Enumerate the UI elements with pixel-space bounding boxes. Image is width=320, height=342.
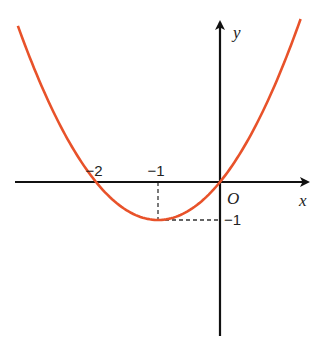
x-tick-label: −1 bbox=[147, 162, 164, 179]
y-tick-label: −1 bbox=[224, 211, 241, 228]
y-axis-label: y bbox=[231, 23, 241, 42]
parabola-curve bbox=[18, 19, 301, 220]
origin-label: O bbox=[227, 189, 239, 208]
x-axis-label: x bbox=[298, 191, 307, 210]
function-graph: −2−1−1 x y O bbox=[0, 0, 320, 342]
x-tick-label: −2 bbox=[85, 162, 102, 179]
